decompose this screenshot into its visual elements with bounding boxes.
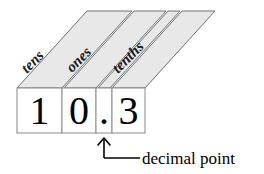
digit-value-tenths: 3 xyxy=(119,88,139,133)
annotation-label: decimal point xyxy=(142,149,235,168)
figure-canvas: tens ones tenths 1 0 . 3 xyxy=(0,0,264,174)
decimal-place-value-figure: tens ones tenths 1 0 . 3 xyxy=(0,0,264,174)
digit-value-tens: 1 xyxy=(30,88,50,133)
digit-cell-group: 1 0 . 3 xyxy=(17,88,145,133)
place-panel-group: tens ones tenths xyxy=(17,11,215,88)
digit-value-ones: 0 xyxy=(69,88,89,133)
decimal-point-annotation: decimal point xyxy=(98,138,235,168)
digit-value-decimal-point: . xyxy=(99,88,109,133)
